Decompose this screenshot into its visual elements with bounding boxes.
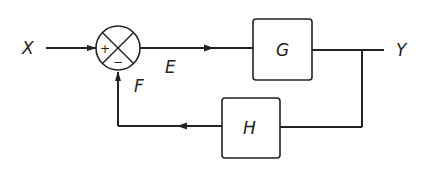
error-label-e: E [165,57,176,77]
block-diagram: X + − E G Y H F [0,0,426,173]
minus-sign: − [113,55,123,69]
block-label-g: G [276,40,289,60]
plus-sign: + [100,42,110,56]
block-label-h: H [243,118,256,138]
feedback-label-f: F [134,76,144,96]
output-label-y: Y [396,40,408,60]
input-label-x: X [21,38,34,58]
error-signal-line [140,45,253,52]
